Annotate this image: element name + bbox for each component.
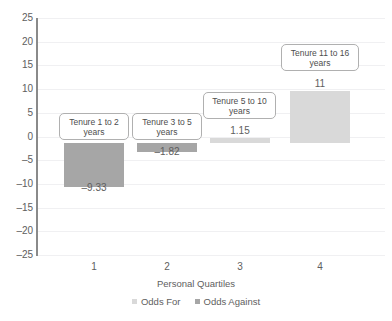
- value-label-quartile-4: 11: [290, 78, 350, 89]
- y-tick-label: –5: [3, 155, 33, 165]
- bar-quartile-3[interactable]: [210, 138, 270, 144]
- value-label-quartile-1: –9.33: [64, 182, 124, 193]
- clipped-chart-title: [0, 0, 392, 1]
- legend-label: Odds For: [141, 296, 181, 307]
- legend-swatch-icon: [132, 299, 137, 304]
- legend-swatch-icon: [195, 299, 200, 304]
- legend-item-odds-against[interactable]: Odds Against: [195, 296, 261, 307]
- y-axis-line: [36, 18, 38, 256]
- y-tick-label: 5: [3, 108, 33, 118]
- y-tick-label: 20: [3, 37, 33, 47]
- bar-quartile-4[interactable]: [290, 91, 350, 143]
- y-tick-label: 0: [3, 132, 33, 142]
- value-label-quartile-2: –1.82: [137, 146, 197, 157]
- gridline: [37, 208, 385, 209]
- y-tick-label: 15: [3, 60, 33, 70]
- bar-chart: 25 20 15 10 5 0 –5 –10 –15 –20 –25 –9.33…: [0, 0, 392, 321]
- x-tick-label: 4: [290, 261, 350, 273]
- x-tick-label: 2: [137, 261, 197, 273]
- legend-item-odds-for[interactable]: Odds For: [132, 296, 181, 307]
- y-tick-label: –20: [3, 226, 33, 236]
- y-axis-ticks: 25 20 15 10 5 0 –5 –10 –15 –20 –25: [0, 18, 33, 256]
- y-tick-label: –15: [3, 203, 33, 213]
- callout-quartile-2[interactable]: Tenure 3 to 5 years: [132, 113, 202, 140]
- value-label-quartile-3: 1.15: [210, 125, 270, 136]
- legend-label: Odds Against: [204, 296, 261, 307]
- chart-legend: Odds For Odds Against: [0, 296, 392, 307]
- x-tick-label: 3: [210, 261, 270, 273]
- x-tick-label: 1: [64, 261, 124, 273]
- gridline: [37, 18, 385, 19]
- y-tick-label: –10: [3, 179, 33, 189]
- y-tick-label: 25: [3, 13, 33, 23]
- callout-quartile-3[interactable]: Tenure 5 to 10 years: [203, 92, 276, 119]
- x-axis-title: Personal Quartiles: [0, 278, 392, 289]
- y-tick-label: –25: [3, 250, 33, 260]
- y-tick-label: 10: [3, 84, 33, 94]
- gridline: [37, 42, 385, 43]
- x-axis-ticks: 1 2 3 4: [37, 261, 385, 275]
- callout-quartile-1[interactable]: Tenure 1 to 2 years: [59, 113, 129, 140]
- gridline: [37, 255, 385, 256]
- callout-quartile-4[interactable]: Tenure 11 to 16 years: [281, 44, 359, 71]
- gridline: [37, 231, 385, 232]
- bar-quartile-1[interactable]: [64, 143, 124, 187]
